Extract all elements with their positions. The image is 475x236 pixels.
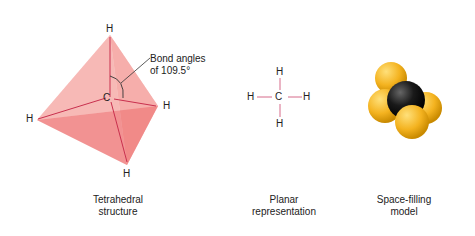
atom-h-top: H: [106, 24, 113, 34]
caption-line-1: Planar: [236, 194, 332, 206]
caption-line-1: Tetrahedral: [70, 194, 166, 206]
methane-diagram: H C H H H Bond angles of 109.5° Tetrahed…: [0, 0, 475, 236]
bond-angle-annotation: Bond angles of 109.5°: [150, 53, 206, 77]
space-filling-caption: Space-filling model: [356, 194, 452, 218]
atom-h-bottom: H: [123, 169, 130, 179]
planar-h-top: H: [276, 67, 283, 77]
planar-c-center: C: [275, 92, 282, 102]
annotation-line-1: Bond angles: [150, 53, 206, 65]
caption-line-2: structure: [70, 206, 166, 218]
atom-h-right: H: [163, 101, 170, 111]
caption-line-2: model: [356, 206, 452, 218]
planar-caption: Planar representation: [236, 194, 332, 218]
caption-line-1: Space-filling: [356, 194, 452, 206]
tetrahedron: [37, 35, 158, 165]
annotation-line-2: of 109.5°: [150, 65, 206, 77]
planar-h-bottom: H: [276, 119, 283, 129]
planar-h-left: H: [247, 92, 254, 102]
caption-line-2: representation: [236, 206, 332, 218]
planar-h-right: H: [303, 92, 310, 102]
atom-c-center: C: [103, 93, 110, 103]
atom-h-left: H: [26, 114, 33, 124]
tetrahedral-caption: Tetrahedral structure: [70, 194, 166, 218]
space-filling-model: [368, 62, 442, 139]
